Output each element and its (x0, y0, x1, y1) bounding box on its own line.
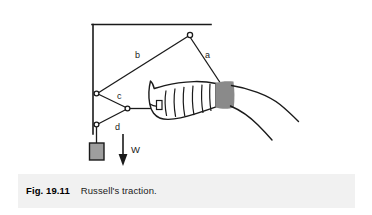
lower-side-pulley (94, 122, 99, 127)
weight-arrow-head (119, 154, 128, 166)
caption-figure-title: Russell's traction. (81, 185, 157, 196)
body-outline (231, 86, 299, 141)
rope-c-line (98, 94, 127, 108)
foot-pulley (125, 106, 130, 111)
figure-illustration-area: b a c d W (0, 0, 372, 172)
label-rope-a: a (205, 50, 210, 60)
label-rope-b: b (135, 50, 140, 60)
label-weight: W (131, 144, 140, 155)
rope-a-line (190, 37, 221, 84)
weight-block (90, 143, 105, 160)
rope-d-line (98, 109, 127, 124)
russells-traction-diagram: b a c d W (0, 0, 372, 172)
body-lower-curve (231, 106, 273, 140)
leg-in-cast (149, 81, 216, 119)
weight-arrow (119, 134, 128, 166)
upper-side-pulley (94, 91, 99, 96)
figure-page: b a c d W Fig. 19.11 Russell's traction. (0, 0, 372, 215)
label-rope-d: d (115, 122, 120, 132)
top-pulley (187, 32, 192, 37)
label-rope-c: c (117, 91, 122, 101)
figure-caption: Fig. 19.11 Russell's traction. (26, 185, 157, 196)
body-upper-curve (232, 86, 299, 122)
caption-figure-number: Fig. 19.11 (26, 185, 70, 196)
ankle-strap (157, 101, 163, 110)
